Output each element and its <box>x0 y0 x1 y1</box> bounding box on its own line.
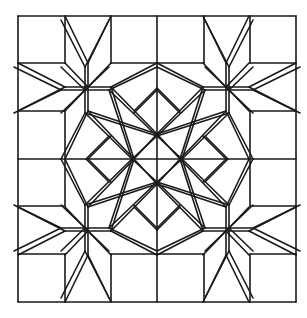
star-segment <box>86 159 109 182</box>
star-segment <box>85 20 109 67</box>
star-segment <box>226 159 249 207</box>
star-segment <box>18 207 65 231</box>
star-segment <box>14 67 61 90</box>
star-segment <box>205 20 229 67</box>
star-segment <box>253 67 300 90</box>
star-segment <box>86 136 109 159</box>
star-segment <box>205 159 228 182</box>
star-segment <box>253 228 300 251</box>
star-segment <box>134 205 157 228</box>
star-segment <box>65 111 88 159</box>
star-segment <box>157 90 180 113</box>
star-segment <box>18 231 65 255</box>
star-segment <box>203 159 226 182</box>
star-segment <box>249 63 296 87</box>
star-segment <box>249 231 296 255</box>
star-segment <box>109 67 157 90</box>
star-segment <box>132 159 157 182</box>
star-segment <box>203 136 226 159</box>
star-segment <box>85 251 109 298</box>
star-segment <box>134 90 157 113</box>
star-segment <box>14 228 61 251</box>
star-segment <box>205 251 229 298</box>
star-segment <box>65 255 88 302</box>
star-segment <box>226 255 249 302</box>
star-segment <box>157 205 180 228</box>
star-segment <box>157 207 180 230</box>
star-segment <box>157 228 205 251</box>
star-segment <box>134 88 157 111</box>
star-segment <box>249 207 296 231</box>
star-segment <box>157 159 182 182</box>
star-segment <box>111 63 157 87</box>
star-segment <box>18 87 65 111</box>
star-segment <box>111 231 157 255</box>
star-segment <box>109 228 157 251</box>
quilt-pattern-svg <box>0 0 307 318</box>
star-segment <box>157 231 203 255</box>
star-segment <box>205 136 228 159</box>
star-segment <box>226 16 249 63</box>
star-segment <box>226 111 249 159</box>
star-segment <box>88 136 111 159</box>
star-segment <box>157 88 180 111</box>
star-segment <box>65 16 88 63</box>
star-segment <box>134 207 157 230</box>
star-segment <box>18 63 65 87</box>
star-segment <box>157 67 205 90</box>
star-segment <box>157 63 203 87</box>
star-segment <box>157 136 182 159</box>
star-segment <box>249 87 296 111</box>
star-segment <box>132 136 157 159</box>
star-segment <box>65 159 88 207</box>
star-segment <box>88 159 111 182</box>
grid-lines <box>18 16 296 302</box>
quilt-diagram <box>0 0 307 318</box>
